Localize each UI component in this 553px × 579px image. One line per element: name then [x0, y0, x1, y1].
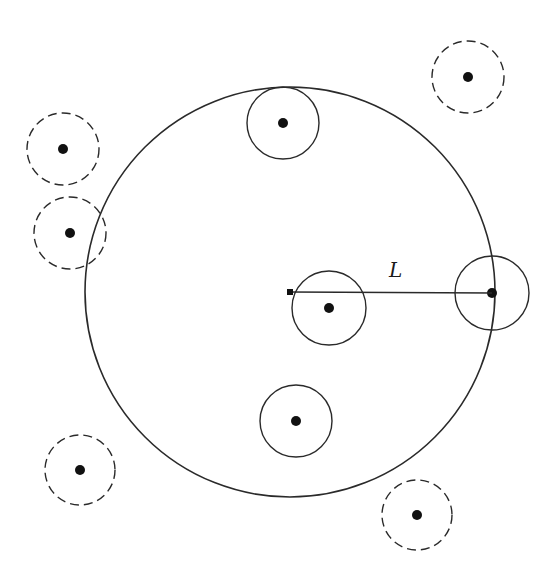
dashed-node-1 [34, 197, 106, 269]
node-dot [58, 144, 68, 154]
node-dot [463, 72, 473, 82]
solid-circles-group [247, 87, 529, 457]
radius-label-L: L [388, 258, 402, 282]
solid-node-1 [292, 271, 366, 345]
dashed-node-4 [382, 480, 452, 550]
node-dot [412, 510, 422, 520]
solid-node-0 [247, 87, 319, 159]
dashed-node-3 [45, 435, 115, 505]
solid-node-2 [260, 385, 332, 457]
dashed-circles-group [27, 41, 504, 550]
node-dot [278, 118, 288, 128]
radius-line-group [287, 289, 492, 295]
node-dot [291, 416, 301, 426]
dashed-node-2 [432, 41, 504, 113]
dashed-node-0 [27, 113, 99, 185]
diagram-canvas: L [0, 0, 553, 579]
node-dot [75, 465, 85, 475]
node-dot [324, 303, 334, 313]
node-dot [65, 228, 75, 238]
center-marker [287, 289, 293, 295]
radius-line [290, 292, 492, 293]
